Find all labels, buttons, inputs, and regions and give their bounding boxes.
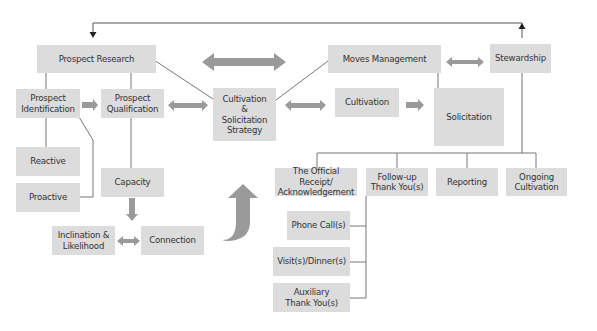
block-arrows [82,53,484,246]
moves-management-box: Moves Management [328,45,441,73]
curved-up-arrow [222,184,258,241]
inclination-likelihood-box: Inclination & Likelihood [52,226,115,255]
large-double-arrow [202,53,286,71]
cultivation-box: Cultivation [335,88,399,117]
double-arrow-moves-stewardship [446,57,484,67]
reactive-box: Reactive [16,147,80,176]
stewardship-box: Stewardship [490,44,551,73]
right-arrow-id-qual [82,99,98,111]
visits-dinners-box: Visit(s)/Dinner(s) [273,247,350,276]
double-arrow-strategy-cultivation [285,100,326,111]
prospect-identification-box: Prospect Identification [16,89,80,118]
proactive-box: Proactive [16,183,80,212]
reporting-box: Reporting [436,168,498,196]
auxiliary-thank-yous-box: Auxiliary Thank You(s) [273,283,350,312]
follow-up-thank-you-box: Follow-up Thank You(s) [366,168,428,196]
double-arrow-inclination-connection [117,236,140,246]
ongoing-cultivation-box: Ongoing Cultivation [506,168,567,196]
down-arrow-capacity [126,198,138,221]
capacity-box: Capacity [101,168,164,197]
solicitation-box: Solicitation [434,88,504,146]
phone-calls-box: Phone Call(s) [287,211,350,240]
right-arrow-cultivation-solicitation [406,99,424,111]
fundraising-cycle-diagram: Prospect Research Prospect Identificatio… [0,0,597,331]
official-receipt-box: The Official Receipt/ Acknowledgement [275,168,357,196]
double-arrow-qual-strategy [168,100,208,111]
feedback-loop-arrow [90,23,526,38]
cultivation-solicitation-strategy-box: Cultivation & Solicitation Strategy [213,88,276,141]
prospect-qualification-box: Prospect Qualification [101,89,164,118]
connection-box: Connection [141,226,204,255]
prospect-research-box: Prospect Research [37,45,156,73]
